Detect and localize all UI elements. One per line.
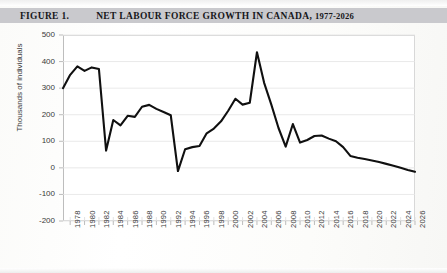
x-tick-label: 2024	[404, 210, 413, 228]
figure-title-years: 1977-2026	[315, 11, 354, 21]
x-tick-label: 1986	[131, 210, 140, 228]
x-tick-label: 1978	[73, 210, 82, 228]
x-tick-label: 1992	[174, 210, 183, 228]
x-tick-label: 1980	[88, 210, 97, 228]
x-tick-label: 2010	[303, 210, 312, 228]
x-tick-label: 2022	[389, 210, 398, 228]
figure-title: NET LABOUR FORCE GROWTH IN CANADA, 1977-…	[96, 11, 354, 21]
chart-area: Thousands of individuals 500400300200100…	[0, 23, 447, 273]
line-chart-svg	[0, 23, 447, 273]
x-tick-label: 1984	[116, 210, 125, 228]
y-tick-label: 0	[21, 163, 55, 172]
x-tick-label: 1998	[217, 210, 226, 228]
scan-top-shadow	[0, 0, 447, 6]
data-series-line	[63, 52, 415, 172]
x-tick-label: 2000	[231, 210, 240, 228]
figure-title-text: NET LABOUR FORCE GROWTH IN CANADA,	[96, 11, 312, 21]
x-tick-label: 2014	[332, 210, 341, 228]
y-tick-label: 100	[21, 136, 55, 145]
x-tick-label: 2008	[289, 210, 298, 228]
x-tick-label: 1996	[202, 210, 211, 228]
y-tick-label: -200	[21, 216, 55, 225]
x-tick-label: 1990	[159, 210, 168, 228]
x-tick-label: 2018	[361, 210, 370, 228]
figure-number: FIGURE 1.	[20, 11, 69, 21]
x-tick-label: 1994	[188, 210, 197, 228]
x-tick-label: 2002	[246, 210, 255, 228]
x-tick-label: 1982	[102, 210, 111, 228]
y-tick-label: 300	[21, 83, 55, 92]
y-tick-label: 200	[21, 110, 55, 119]
figure-container: FIGURE 1. NET LABOUR FORCE GROWTH IN CAN…	[0, 0, 447, 273]
y-tick-label: 400	[21, 57, 55, 66]
y-tick-label: 500	[21, 30, 55, 39]
x-tick-label: 2012	[317, 210, 326, 228]
x-tick-label: 2026	[418, 210, 427, 228]
y-tick-label: -100	[21, 189, 55, 198]
x-tick-label: 1988	[145, 210, 154, 228]
x-tick-label: 2016	[346, 210, 355, 228]
x-tick-label: 2020	[375, 210, 384, 228]
figure-header-band: FIGURE 1. NET LABOUR FORCE GROWTH IN CAN…	[0, 8, 447, 23]
x-tick-label: 2006	[274, 210, 283, 228]
x-tick-label: 2004	[260, 210, 269, 228]
